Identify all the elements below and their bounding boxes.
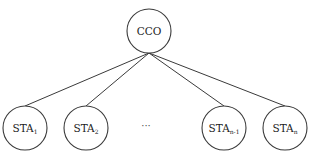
edge-cco-sta1 bbox=[25, 53, 149, 106]
sta1-label: STA bbox=[12, 122, 34, 134]
sta-n-label: STA bbox=[272, 122, 294, 134]
cco-label: CCO bbox=[137, 25, 162, 37]
sta2-label: STA bbox=[73, 122, 95, 134]
child-node-sta-n: STAn bbox=[263, 106, 307, 150]
cco-sta-topology-diagram: CCO STA1 STA2 ··· STAn-1 STAn bbox=[0, 0, 314, 159]
edge-cco-sta-n bbox=[149, 53, 285, 106]
root-node-cco: CCO bbox=[127, 9, 171, 53]
edge-cco-sta-n-minus-1 bbox=[149, 53, 224, 106]
child-node-sta2: STA2 bbox=[64, 106, 108, 150]
sta-n-minus-1-label: STA bbox=[209, 122, 231, 134]
sta2-subscript: 2 bbox=[95, 128, 99, 135]
child-node-sta-n-minus-1: STAn-1 bbox=[202, 106, 246, 150]
sta-n-minus-1-subscript: n-1 bbox=[230, 128, 240, 135]
sta-n-subscript: n bbox=[294, 128, 298, 135]
ellipsis-more-stations: ··· bbox=[141, 120, 151, 131]
sta1-subscript: 1 bbox=[34, 128, 38, 135]
child-node-sta1: STA1 bbox=[3, 106, 47, 150]
edges bbox=[25, 53, 285, 106]
edge-cco-sta2 bbox=[86, 53, 149, 106]
